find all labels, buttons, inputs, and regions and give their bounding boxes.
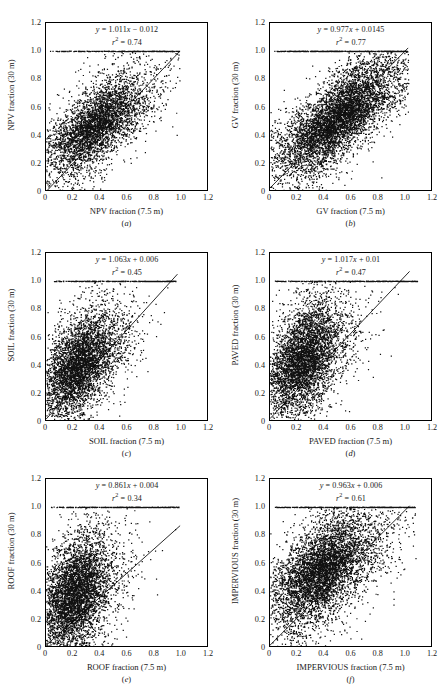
scatter-canvas (270, 23, 431, 190)
x-tick-label: 1.0 (176, 193, 186, 202)
y-tick-label: 0.2 (31, 388, 41, 397)
y-tick-label: 0.8 (255, 530, 265, 539)
y-tick-label: 1.0 (31, 502, 41, 511)
y-tick-label: 1.2 (255, 248, 265, 257)
panel-caption: (b) (269, 219, 432, 228)
x-tick-label: 0.6 (121, 649, 131, 658)
x-tick-label: 1.0 (400, 649, 410, 658)
x-tick-label: 0 (267, 649, 271, 658)
y-tick-label: 0.8 (31, 304, 41, 313)
x-tick-label: 1.2 (427, 423, 437, 432)
x-axis-ticks: 00.20.40.60.81.01.2 (269, 649, 432, 661)
y-tick-label: 0.4 (255, 360, 265, 369)
y-tick-label: 0 (37, 187, 41, 196)
y-tick-label: 1.2 (31, 248, 41, 257)
x-tick-label: 0.4 (318, 193, 328, 202)
y-tick-label: 0.4 (31, 360, 41, 369)
y-axis-label: ROOF fraction (30 m) (6, 466, 16, 636)
y-tick-label: 1.2 (31, 474, 41, 483)
plot-frame (269, 252, 432, 421)
y-tick-label: 0.4 (31, 130, 41, 139)
y-tick-label: 0.2 (255, 158, 265, 167)
scatter-plot-figure: y = 1.011x − 0.012r2 = 0.7400.20.40.60.8… (0, 0, 448, 691)
x-tick-label: 0.2 (67, 649, 77, 658)
x-tick-label: 0.6 (121, 193, 131, 202)
x-axis-label: NPV fraction (7.5 m) (45, 206, 208, 216)
x-tick-label: 0.8 (149, 193, 159, 202)
x-tick-label: 0.6 (345, 649, 355, 658)
chart-panel-a: y = 1.011x − 0.012r2 = 0.7400.20.40.60.8… (0, 0, 224, 230)
y-axis-label: IMPERVIOUS fraction (30 m) (230, 466, 240, 636)
x-tick-label: 1.2 (427, 193, 437, 202)
x-tick-label: 0.8 (149, 649, 159, 658)
y-tick-label: 0.6 (31, 332, 41, 341)
y-tick-label: 1.0 (31, 276, 41, 285)
x-axis-label: SOIL fraction (7.5 m) (45, 436, 208, 446)
x-axis-label: IMPERVIOUS fraction (7.5 m) (269, 662, 432, 672)
x-axis-ticks: 00.20.40.60.81.01.2 (45, 193, 208, 205)
y-tick-label: 0 (37, 643, 41, 652)
y-tick-label: 0 (261, 187, 265, 196)
y-axis-ticks: 00.20.40.60.81.01.2 (14, 22, 43, 191)
y-tick-label: 1.0 (255, 502, 265, 511)
x-tick-label: 0.4 (318, 649, 328, 658)
chart-panel-d: y = 1.017x + 0.01r2 = 0.4700.20.40.60.81… (224, 230, 448, 460)
y-tick-label: 0.8 (31, 530, 41, 539)
x-tick-label: 1.2 (203, 649, 213, 658)
x-tick-label: 0 (43, 649, 47, 658)
x-axis-label: PAVED fraction (7.5 m) (269, 436, 432, 446)
x-tick-label: 1.2 (427, 649, 437, 658)
y-tick-label: 0.4 (255, 130, 265, 139)
y-axis-ticks: 00.20.40.60.81.01.2 (14, 252, 43, 421)
y-tick-label: 0.4 (255, 586, 265, 595)
y-axis-ticks: 00.20.40.60.81.01.2 (238, 478, 267, 647)
x-tick-label: 0.8 (373, 423, 383, 432)
x-tick-label: 0.6 (345, 193, 355, 202)
x-tick-label: 1.0 (400, 193, 410, 202)
y-axis-label: GV fraction (30 m) (230, 10, 240, 180)
scatter-canvas (270, 479, 431, 646)
x-axis-ticks: 00.20.40.60.81.01.2 (269, 423, 432, 435)
x-tick-label: 0.6 (121, 423, 131, 432)
y-tick-label: 0.2 (31, 158, 41, 167)
scatter-canvas (46, 253, 207, 420)
y-tick-label: 0.4 (31, 586, 41, 595)
y-tick-label: 0 (261, 417, 265, 426)
chart-panel-f: y = 0.963x + 0.006r2 = 0.6100.20.40.60.8… (224, 456, 448, 691)
y-tick-label: 0.8 (255, 304, 265, 313)
scatter-canvas (270, 253, 431, 420)
x-tick-label: 0.4 (94, 649, 104, 658)
y-axis-ticks: 00.20.40.60.81.01.2 (14, 478, 43, 647)
x-tick-label: 0.2 (67, 193, 77, 202)
plot-frame (45, 478, 208, 647)
y-tick-label: 0.6 (255, 332, 265, 341)
y-tick-label: 0.2 (255, 388, 265, 397)
y-tick-label: 1.2 (31, 18, 41, 27)
x-axis-label: GV fraction (7.5 m) (269, 206, 432, 216)
x-axis-label: ROOF fraction (7.5 m) (45, 662, 208, 672)
y-tick-label: 0 (37, 417, 41, 426)
x-axis-ticks: 00.20.40.60.81.01.2 (45, 423, 208, 435)
x-tick-label: 0 (267, 423, 271, 432)
x-tick-label: 0.2 (291, 193, 301, 202)
x-axis-ticks: 00.20.40.60.81.01.2 (45, 649, 208, 661)
x-tick-label: 1.0 (176, 423, 186, 432)
x-tick-label: 0.8 (373, 193, 383, 202)
y-tick-label: 0.8 (31, 74, 41, 83)
plot-frame (45, 22, 208, 191)
x-tick-label: 0.2 (291, 649, 301, 658)
y-axis-ticks: 00.20.40.60.81.01.2 (238, 252, 267, 421)
panel-caption: (e) (45, 675, 208, 684)
x-tick-label: 1.0 (400, 423, 410, 432)
x-tick-label: 0 (43, 423, 47, 432)
y-tick-label: 0 (261, 643, 265, 652)
y-tick-label: 1.0 (31, 46, 41, 55)
x-tick-label: 1.2 (203, 423, 213, 432)
y-tick-label: 0.8 (255, 74, 265, 83)
y-tick-label: 0.6 (31, 102, 41, 111)
y-axis-ticks: 00.20.40.60.81.01.2 (238, 22, 267, 191)
x-tick-label: 0.8 (149, 423, 159, 432)
y-tick-label: 1.2 (255, 474, 265, 483)
y-tick-label: 0.2 (255, 614, 265, 623)
x-tick-label: 0 (43, 193, 47, 202)
